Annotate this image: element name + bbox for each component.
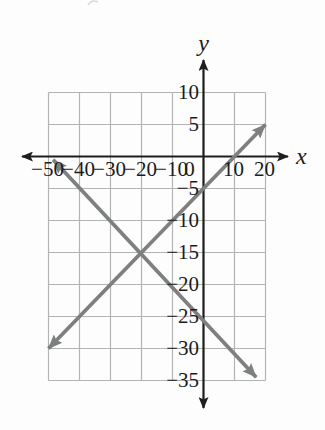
x-tick-label: 10	[223, 157, 244, 181]
x-tick-label: 20	[254, 157, 275, 181]
y-tick-label: −35	[166, 368, 199, 392]
tick-labels: −50−40−30−20−1001020105−5−10−15−20−25−30…	[31, 80, 275, 392]
coordinate-plane: −50−40−30−20−1001020105−5−10−15−20−25−30…	[0, 0, 325, 430]
falling-line	[53, 160, 256, 378]
y-tick-label: −25	[166, 304, 199, 328]
y-tick-label: 10	[178, 80, 199, 104]
x-tick-label: −20	[124, 157, 157, 181]
y-tick-label: 5	[189, 112, 200, 136]
y-tick-label: −10	[166, 208, 199, 232]
y-tick-label: −20	[166, 272, 199, 296]
y-tick-label: −5	[177, 176, 199, 200]
x-axis-label: x	[295, 143, 307, 169]
print-artifact	[88, 1, 98, 5]
graph-figure: −50−40−30−20−1001020105−5−10−15−20−25−30…	[0, 0, 325, 430]
y-tick-label: −30	[166, 336, 199, 360]
x-tick-label: −40	[62, 157, 95, 181]
x-tick-label: −50	[31, 157, 64, 181]
axes	[22, 60, 288, 408]
x-tick-label: −30	[93, 157, 126, 181]
y-tick-label: −15	[166, 240, 199, 264]
y-axis-label: y	[196, 30, 209, 56]
